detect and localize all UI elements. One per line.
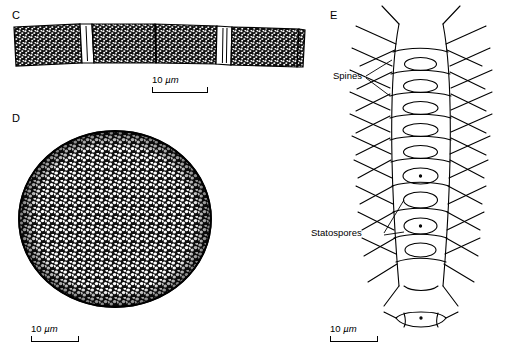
panel-c-filament <box>14 24 305 67</box>
scale-bar-label-c: 10 µm <box>152 74 179 85</box>
panel-d-disc <box>19 131 211 307</box>
scale-bar-rule-e <box>330 336 378 342</box>
panel-letter-d: D <box>12 113 20 124</box>
figure-plate: C D E <box>0 0 532 353</box>
callout-leaders <box>366 60 404 235</box>
panel-letter-c: C <box>12 10 20 21</box>
scale-bar-label-e: 10 µm <box>330 323 357 334</box>
panel-e-chain <box>350 6 492 327</box>
scale-bar-rule-d <box>31 336 79 342</box>
scale-bar-label-d: 10 µm <box>31 323 58 334</box>
callout-label-statospores: Statospores <box>311 227 362 238</box>
callout-label-spines: Spines <box>333 70 362 81</box>
scale-bar-rule-c <box>152 87 208 93</box>
figure-artwork <box>0 0 532 353</box>
panel-letter-e: E <box>330 10 337 21</box>
